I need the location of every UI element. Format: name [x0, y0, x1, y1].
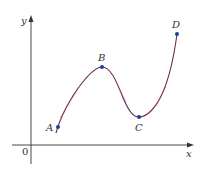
point-b-label: B	[97, 52, 105, 63]
y-axis-arrow-icon	[29, 15, 34, 22]
point-d: D	[171, 19, 180, 36]
point-a-marker	[56, 125, 60, 129]
point-d-label: D	[171, 19, 180, 30]
y-axis-label: y	[20, 15, 27, 26]
point-a: A	[45, 122, 60, 133]
point-d-marker	[175, 32, 179, 36]
point-a-label: A	[45, 122, 53, 133]
curve-overlay-blue	[122, 96, 128, 108]
point-b-marker	[100, 65, 104, 69]
curve	[56, 34, 177, 133]
x-axis-label: x	[186, 148, 192, 159]
x-axis-arrow-icon	[187, 143, 194, 148]
point-c-label: C	[135, 122, 143, 133]
origin-label: 0	[22, 146, 28, 157]
point-b: B	[97, 52, 105, 69]
axes: x y 0	[12, 15, 194, 164]
point-c-marker	[137, 115, 141, 119]
point-c: C	[135, 115, 143, 133]
graph-figure: x y 0 A B C D	[0, 0, 205, 171]
